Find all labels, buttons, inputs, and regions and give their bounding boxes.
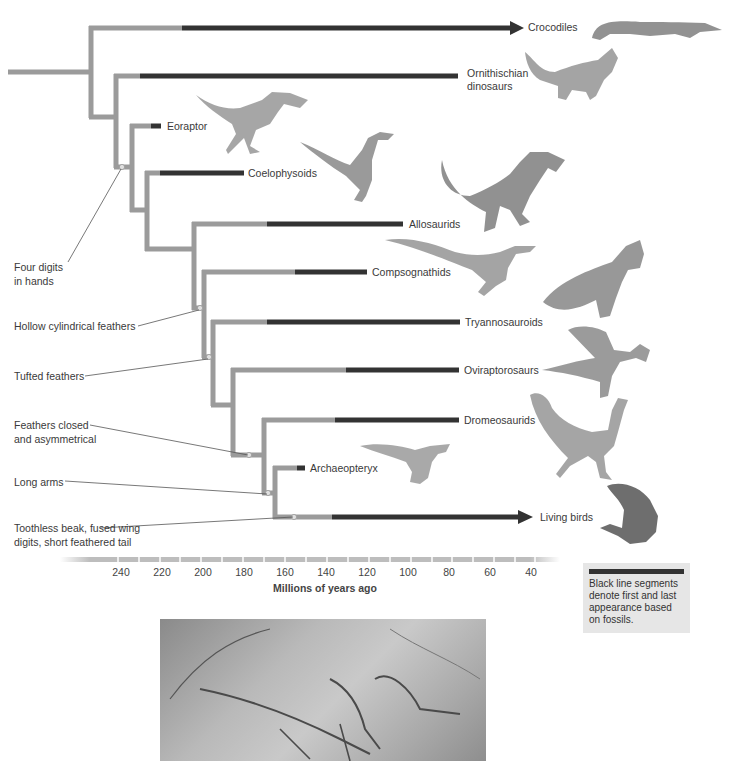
trait-tufted-feathers: Tufted feathers	[14, 369, 84, 383]
taxon-label-oviraptorosaurs: Oviraptorosaurs	[464, 364, 539, 377]
trait-long-arms: Long arms	[14, 475, 64, 489]
time-axis-bar	[60, 556, 560, 563]
taxon-label-ornithischian: Ornithischian dinosaurs	[467, 67, 528, 93]
axis-tick-140: 140	[311, 566, 341, 578]
triceratops-illustration	[525, 48, 618, 100]
taxon-label-compsognathids: Compsognathids	[372, 266, 451, 279]
axis-tick-240: 240	[106, 566, 136, 578]
taxon-label-living-birds: Living birds	[540, 511, 593, 524]
axis-tick-200: 200	[188, 566, 218, 578]
trait-feathers-closed-asymmetrical: Feathers closed and asymmetrical	[14, 418, 96, 446]
taxon-label-allosaurids: Allosaurids	[409, 218, 460, 231]
taxon-label-crocodiles: Crocodiles	[528, 21, 578, 34]
eoraptor-illustration	[196, 92, 308, 154]
crocodile-illustration	[592, 21, 722, 40]
tyrannosaurus-illustration	[543, 240, 644, 318]
axis-tick-160: 160	[270, 566, 300, 578]
taxon-label-tryannosauroids: Tryannosauroids	[465, 316, 543, 329]
taxon-label-eoraptor: Eoraptor	[167, 120, 207, 133]
living-birds-arrowhead	[518, 510, 533, 524]
legend-box: Black line segments denote first and las…	[583, 563, 690, 633]
axis-tick-80: 80	[434, 566, 464, 578]
trait-four-digits: Four digits in hands	[14, 260, 63, 288]
axis-tick-100: 100	[393, 566, 423, 578]
trait-toothless-beak: Toothless beak, fused wing digits, short…	[14, 521, 140, 549]
trait-hollow-cylindrical-feathers: Hollow cylindrical feathers	[14, 319, 135, 333]
crocodiles-arrowhead	[510, 21, 524, 35]
axis-tick-180: 180	[229, 566, 259, 578]
legend-black-swatch	[589, 569, 684, 574]
axis-tick-220: 220	[147, 566, 177, 578]
taxon-label-archaeopteryx: Archaeopteryx	[310, 462, 378, 475]
axis-tick-40: 40	[516, 566, 546, 578]
legend-text: Black line segments denote first and las…	[589, 578, 684, 626]
taxon-label-coelophysoids: Coelophysoids	[248, 167, 317, 180]
dromaeosaur-bird-illustration	[530, 393, 628, 480]
taxon-label-dromeosaurids: Dromeosaurids	[464, 414, 535, 427]
axis-tick-120: 120	[352, 566, 382, 578]
eagle-illustration	[600, 484, 658, 544]
axis-tick-60: 60	[475, 566, 505, 578]
oviraptorosaur-illustration	[542, 326, 650, 398]
archaeopteryx-fossil-photo	[160, 619, 486, 761]
